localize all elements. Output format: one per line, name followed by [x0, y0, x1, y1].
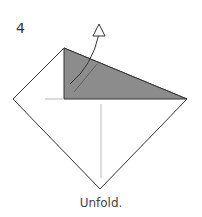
arrowhead-icon	[93, 24, 105, 36]
shaded-flap	[64, 48, 187, 99]
step-caption: Unfold.	[0, 196, 202, 210]
origami-diagram	[0, 0, 202, 217]
